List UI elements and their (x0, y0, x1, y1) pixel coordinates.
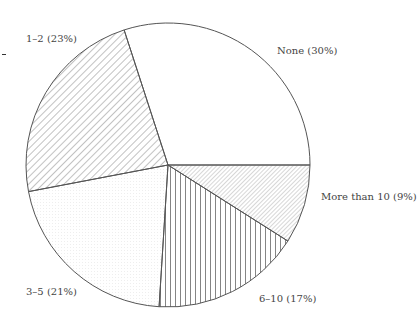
slice-label-none: None (30%) (277, 45, 337, 56)
slice-label-6-10: 6–10 (17%) (259, 293, 316, 304)
slice-label-1-2: 1–2 (23%) (26, 33, 77, 44)
pie-chart: None (30%) More than 10 (9%) 6–10 (17%) … (0, 0, 420, 326)
slice-label-3-5: 3–5 (21%) (26, 286, 77, 297)
slice-label-more-than-10: More than 10 (9%) (321, 191, 417, 202)
